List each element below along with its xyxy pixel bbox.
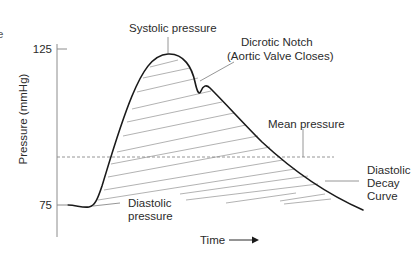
pressure-curve [68,54,363,210]
tick-label-75: 75 [22,198,52,212]
dicrotic-leader [200,62,234,81]
diastolic-leader [93,203,120,206]
decay-curve-label-line3: Curve [367,189,398,203]
diastolic-pressure-label-line1: Diastolic [128,196,171,210]
y-axis-label: Pressure (mmHg) [17,72,29,166]
hatch-fill [98,60,331,204]
aortic-valve-closes-label: (Aortic Valve Closes) [227,49,334,63]
dicrotic-notch-label: Dicrotic Notch [241,35,313,49]
decay-curve-label-line1: Diastolic [367,163,410,177]
diagram-canvas [0,0,416,255]
pressure-waveform-diagram: e 125 75 Pressure (mmHg) Systolic pressu… [0,0,416,255]
mean-pressure-label: Mean pressure [268,117,345,131]
tick-label-125: 125 [22,42,52,56]
decay-curve-label-line2: Decay [367,176,400,190]
systolic-pressure-label: Systolic pressure [129,21,217,35]
right-arrow-icon [252,237,259,244]
diastolic-pressure-label-line2: pressure [128,209,173,223]
edge-text-fragment: e [0,28,3,40]
x-axis-label: Time [200,233,225,247]
